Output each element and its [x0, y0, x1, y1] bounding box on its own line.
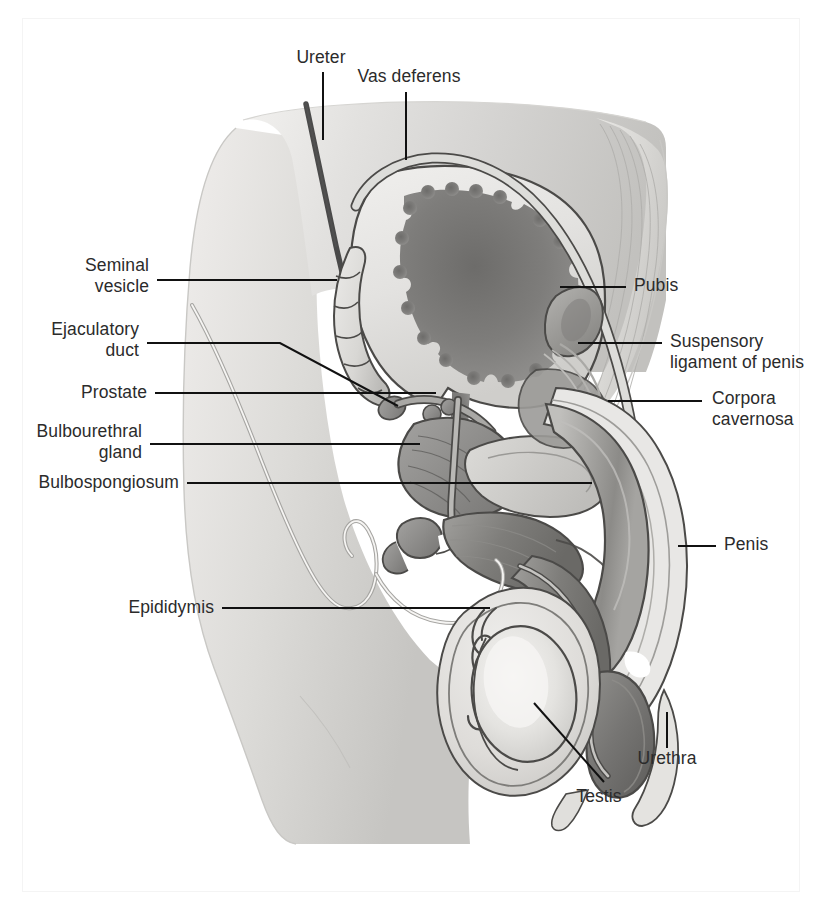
- label-epididymis: Epididymis: [0, 597, 214, 618]
- figure-page: Ureter Vas deferens Seminal vesicle Ejac…: [0, 0, 824, 910]
- label-bulbospongiosum: Bulbospongiosum: [0, 472, 179, 493]
- label-urethra: Urethra: [614, 748, 720, 769]
- label-corpora-cavernosa: Corpora cavernosa: [712, 388, 824, 431]
- scrotum-structure: [437, 588, 600, 796]
- label-bulbourethral-gland: Bulbourethral gland: [0, 421, 142, 464]
- label-seminal-vesicle: Seminal vesicle: [0, 255, 149, 298]
- label-pubis: Pubis: [634, 275, 784, 296]
- label-vas-deferens: Vas deferens: [346, 66, 472, 87]
- label-penis: Penis: [724, 534, 820, 555]
- label-suspensory-ligament: Suspensory ligament of penis: [670, 331, 824, 374]
- label-testis: Testis: [548, 786, 650, 807]
- label-ejaculatory-duct: Ejaculatory duct: [0, 319, 139, 362]
- label-prostate: Prostate: [0, 382, 147, 403]
- bulbourethral-gland-body: [397, 518, 442, 558]
